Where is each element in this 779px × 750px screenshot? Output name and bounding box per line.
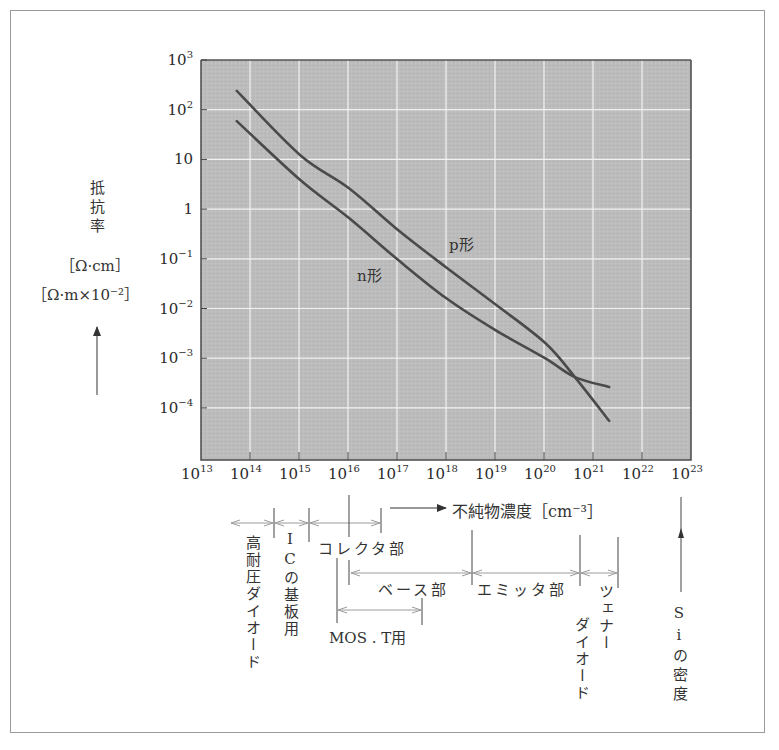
y-axis-ticks: 10310210110−110−210−310−4 bbox=[159, 49, 207, 417]
si-density-arrowhead bbox=[678, 528, 684, 538]
n-type-label: n形 bbox=[357, 264, 382, 285]
y-tick-label: 10 bbox=[174, 150, 193, 168]
annotation-mos-t: MOS . T用 bbox=[329, 626, 406, 647]
x-axis-title: 不純物濃度［cm⁻³］ bbox=[452, 498, 603, 522]
x-tick-label: 1016 bbox=[328, 463, 360, 483]
y-axis-title: 抵抗率 bbox=[88, 180, 103, 237]
annotation-emitter: エミッタ部 bbox=[477, 578, 567, 599]
y-tick-label: 10−1 bbox=[159, 248, 193, 268]
annotation-collector: コレクタ部 bbox=[318, 537, 407, 558]
y-tick-label: 103 bbox=[168, 49, 193, 69]
x-tick-label: 1022 bbox=[622, 463, 654, 483]
annotation-si-density: Siの密度 bbox=[671, 604, 686, 705]
annotation-zener-2: ダイオード bbox=[573, 617, 588, 702]
x-tick-label: 1021 bbox=[573, 463, 605, 483]
annotation-ic-substrate: ICの基板用 bbox=[282, 530, 297, 638]
y-tick-label: 1 bbox=[183, 200, 193, 218]
annotation-high-voltage-diode: 高耐圧ダイオード bbox=[244, 535, 259, 671]
x-tick-label: 1018 bbox=[426, 463, 458, 483]
y-axis-unit-si: ［Ω·m×10⁻²］ bbox=[32, 283, 139, 304]
y-axis-unit-cgs: ［Ω·cm］ bbox=[60, 254, 130, 275]
x-tick-label: 1020 bbox=[524, 463, 556, 483]
x-tick-label: 1023 bbox=[671, 463, 703, 483]
y-tick-label: 10−3 bbox=[159, 347, 193, 367]
x-tick-label: 1015 bbox=[279, 463, 311, 483]
x-tick-label: 1013 bbox=[181, 463, 213, 483]
x-tick-label: 1017 bbox=[377, 463, 409, 483]
annotation-zener-1: ツェナー bbox=[597, 584, 612, 652]
y-tick-label: 10−2 bbox=[159, 298, 193, 318]
annotation-base: ベース部 bbox=[378, 578, 449, 599]
y-tick-label: 102 bbox=[168, 99, 193, 119]
x-tick-label: 1019 bbox=[475, 463, 507, 483]
p-type-label: p形 bbox=[449, 233, 474, 254]
x-tick-label: 1014 bbox=[230, 463, 262, 483]
y-tick-label: 10−4 bbox=[159, 397, 193, 417]
